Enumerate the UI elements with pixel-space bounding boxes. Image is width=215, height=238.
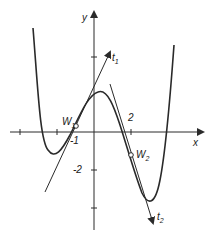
y-axis-label: y: [82, 13, 87, 23]
graph-canvas: [0, 0, 215, 238]
function-curve: [33, 28, 174, 201]
x-axis-label: x: [193, 138, 198, 148]
x-point-label: -1: [70, 136, 79, 146]
x-tick-label: 2: [128, 113, 134, 123]
t2-label: t2: [157, 212, 164, 224]
function-graph: y x 2 -1 -2 W1 W2 t1 t2: [0, 0, 215, 238]
y-tick-label: -2: [73, 165, 82, 175]
w2-label: W2: [136, 150, 149, 162]
point-w2: [129, 153, 134, 158]
w1-label: W1: [62, 117, 75, 129]
t1-label: t1: [112, 53, 119, 65]
